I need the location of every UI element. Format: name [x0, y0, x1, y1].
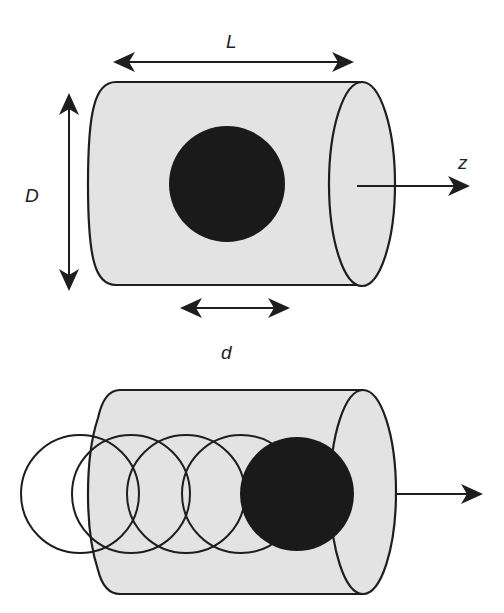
- diagram: L D z d: [0, 0, 504, 613]
- top-figure: L D z d: [25, 31, 468, 363]
- length-label: L: [226, 31, 237, 52]
- bottom-particle: [240, 437, 354, 551]
- diameter-label: D: [25, 185, 39, 206]
- top-particle: [169, 126, 285, 242]
- bottom-figure: [21, 390, 481, 594]
- z-axis-label: z: [457, 152, 468, 173]
- top-cylinder-end-face: [329, 82, 395, 286]
- particle-size-label: d: [221, 342, 233, 363]
